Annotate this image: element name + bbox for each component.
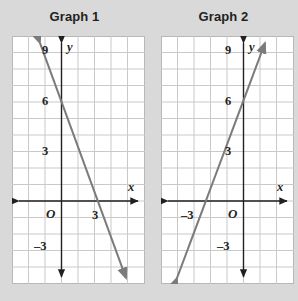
- graph-2-y-axis-name: y: [249, 40, 255, 55]
- graph-2-x-label-neg3: –3: [181, 208, 194, 223]
- graph-2-y-label-9: 9: [225, 43, 231, 58]
- graph-2-y-label-6: 6: [225, 94, 231, 109]
- graph-1-origin-label: O: [46, 206, 55, 222]
- graph-1-title: Graph 1: [0, 9, 149, 24]
- graph-1-plot-area: 9 6 3 –3 3 y x O: [12, 36, 145, 284]
- graph-1-x-label-3: 3: [92, 208, 98, 223]
- graph-panel-2: Graph 2: [149, 0, 298, 301]
- graph-2-x-axis-name: x: [277, 180, 283, 195]
- graph-2-title: Graph 2: [149, 9, 298, 24]
- graph-panel-1: Graph 1: [0, 0, 149, 301]
- graph-2-y-label-neg3: –3: [217, 239, 230, 254]
- graph-2-plot-area: 9 6 3 –3 –3 y x O: [161, 36, 294, 284]
- graph-1-y-label-neg3: –3: [34, 239, 47, 254]
- graph-1-x-axis-name: x: [128, 180, 134, 195]
- graph-2-y-label-3: 3: [225, 144, 231, 159]
- graph-1-y-axis-name: y: [67, 40, 73, 55]
- graph-1-y-label-3: 3: [42, 144, 48, 159]
- graph-2-origin-label: O: [228, 206, 237, 222]
- graph-1-y-label-6: 6: [42, 94, 48, 109]
- page-root: Graph 1: [0, 0, 298, 301]
- graph-1-y-label-9: 9: [42, 43, 48, 58]
- graph-1-svg: [12, 36, 145, 284]
